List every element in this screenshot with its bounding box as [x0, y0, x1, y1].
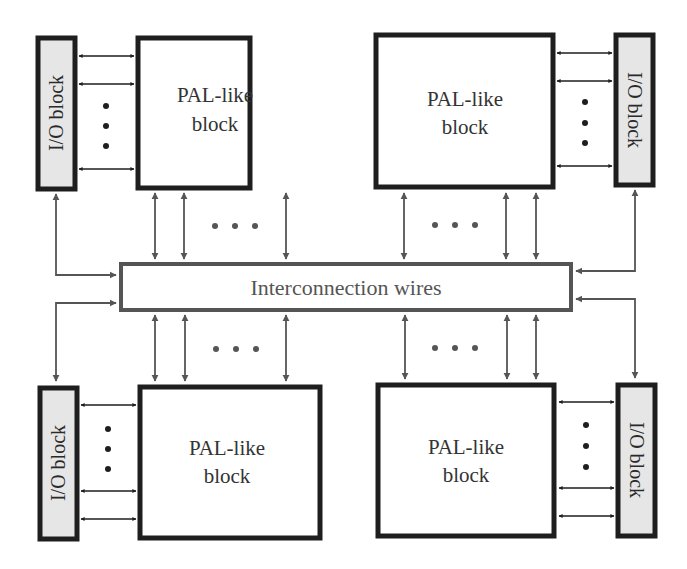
pal-block-label-line2: block	[192, 112, 239, 136]
io-block-label: I/O block	[626, 422, 648, 498]
pal-block-top-right: PAL-like block	[376, 35, 553, 187]
fpga-cpld-diagram: I/O block PAL-like block PAL-like block …	[0, 0, 687, 569]
pal-block-label-line1: PAL-like	[189, 436, 265, 460]
horizontal-ellipsis-bottom-left	[213, 346, 259, 352]
vertical-ellipsis-bottom-left	[105, 426, 111, 472]
horizontal-ellipsis-top-left	[212, 223, 258, 229]
io-block-bottom-right: I/O block	[618, 385, 655, 536]
io-block-label: I/O block	[45, 75, 67, 151]
io-pal-connections-top-left	[79, 56, 134, 169]
io-block-label: I/O block	[47, 425, 69, 501]
interconnection-wires-block: Interconnection wires	[121, 264, 571, 310]
pal-block-label-line1: PAL-like	[177, 83, 253, 107]
horizontal-ellipsis-top-right	[432, 222, 478, 228]
io-block-bottom-left: I/O block	[40, 388, 77, 539]
pal-block-label-line2: block	[443, 463, 490, 487]
io-pal-connections-bottom-left	[81, 405, 136, 519]
io-pal-connections-bottom-right	[559, 402, 614, 516]
vertical-ellipsis-top-left	[103, 103, 109, 149]
vertical-ellipsis-top-right	[582, 99, 588, 146]
io-block-top-right: I/O block	[616, 35, 653, 185]
pal-block-bottom-right: PAL-like block	[378, 385, 554, 536]
interconnect-label: Interconnection wires	[250, 275, 441, 300]
pal-block-bottom-left: PAL-like block	[140, 387, 320, 538]
pal-block-label-line2: block	[204, 464, 251, 488]
io-block-top-left: I/O block	[38, 38, 75, 189]
pal-block-top-left: PAL-like block	[138, 38, 253, 188]
io-pal-connections-top-right	[557, 53, 612, 166]
vertical-ellipsis-bottom-right	[583, 422, 589, 470]
horizontal-ellipsis-bottom-right	[432, 345, 478, 351]
pal-block-label-line2: block	[442, 115, 489, 139]
pal-block-label-line1: PAL-like	[428, 435, 504, 459]
pal-interconnect-wires-bottom	[155, 315, 536, 381]
io-block-label: I/O block	[624, 72, 646, 148]
pal-block-label-line1: PAL-like	[427, 87, 503, 111]
